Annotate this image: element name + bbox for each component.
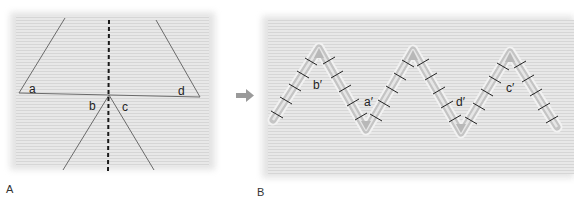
diagram-canvas bbox=[0, 0, 574, 208]
panel-label-a: A bbox=[6, 184, 13, 195]
incision-label-b-prime: b′ bbox=[313, 79, 322, 91]
panel-label-b: B bbox=[257, 187, 264, 198]
right-arrow-icon bbox=[236, 89, 254, 102]
incision-label-d-prime: d′ bbox=[456, 96, 465, 108]
incision-label-c-prime: c′ bbox=[506, 82, 514, 94]
incision-label-d: d bbox=[178, 85, 185, 97]
panel-b-skin bbox=[262, 16, 574, 178]
incision-label-a-prime: a′ bbox=[364, 96, 373, 108]
incision-label-b: b bbox=[89, 100, 96, 112]
incision-label-a: a bbox=[29, 83, 36, 95]
incision-label-c: c bbox=[122, 101, 128, 113]
